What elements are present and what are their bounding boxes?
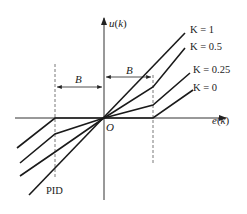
curve-label-k-0.5: K = 0.5 xyxy=(190,41,222,52)
x-axis-label: e(k) xyxy=(212,114,229,127)
curve-label-k-0.25: K = 0.25 xyxy=(193,64,230,75)
b-label-right: B xyxy=(126,64,133,76)
curve-label-k-0: K = 0 xyxy=(193,82,217,93)
diagram-canvas: u(k) e(k) O B B K = 1 K = 0.5 K = 0.25 K… xyxy=(0,0,247,214)
curve-k-0 xyxy=(17,90,193,148)
pid-annotation: PID xyxy=(46,185,63,196)
b-label-left: B xyxy=(75,73,82,85)
curve-label-k-1: K = 1 xyxy=(190,24,214,35)
y-axis-label: u(k) xyxy=(109,17,127,30)
curve-k-1 xyxy=(29,33,185,195)
origin-label: O xyxy=(106,121,114,133)
